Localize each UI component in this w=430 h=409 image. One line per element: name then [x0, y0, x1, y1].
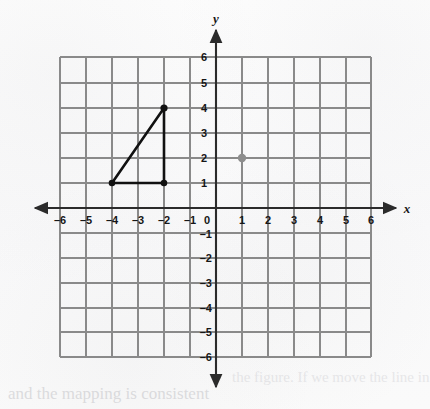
y-tick-label: –6 [200, 351, 212, 363]
y-tick-label: 1 [201, 177, 207, 189]
x-tick-label: –2 [158, 214, 170, 226]
x-tick-label: 6 [368, 214, 374, 226]
triangle-vertex-marker[interactable] [161, 180, 168, 187]
y-tick-label: 5 [201, 77, 207, 89]
y-tick-label: 3 [201, 127, 207, 139]
y-tick-label: –1 [200, 228, 212, 240]
bleed-line-1: and the mapping is consistent [8, 384, 209, 403]
plotted-point-marker[interactable] [238, 154, 246, 162]
y-tick-label: 4 [201, 102, 208, 114]
bleed-line-2: the figure. If we move the line in [232, 369, 430, 385]
origin-label: 0 [204, 214, 210, 226]
x-tick-label: 4 [317, 214, 324, 226]
y-tick-label: –4 [200, 302, 213, 314]
x-tick-label: –1 [184, 214, 196, 226]
y-tick-label: 2 [201, 152, 207, 164]
coordinate-plane-svg: and the mapping is consistent the figure… [0, 0, 430, 409]
x-tick-label: 3 [291, 214, 297, 226]
y-axis-label: y [211, 11, 219, 26]
triangle-vertex-marker[interactable] [160, 104, 167, 111]
y-tick-label: –3 [200, 277, 212, 289]
x-tick-label: –4 [106, 214, 119, 226]
coordinate-plane-figure: and the mapping is consistent the figure… [0, 0, 430, 409]
x-tick-label: 2 [265, 214, 271, 226]
x-tick-label: 1 [239, 214, 245, 226]
x-tick-label: 5 [343, 214, 349, 226]
x-tick-label: –5 [80, 214, 92, 226]
x-tick-label: –6 [54, 214, 66, 226]
y-tick-label: –5 [200, 326, 212, 338]
y-tick-label: 6 [201, 51, 207, 63]
bleed-through-text: and the mapping is consistent the figure… [8, 369, 430, 403]
x-tick-label: –3 [132, 214, 144, 226]
triangle-vertex-marker[interactable] [109, 180, 116, 187]
x-axis-tick-labels: –6 –5 –4 –3 –2 –1 1 2 3 4 5 6 [54, 214, 374, 226]
x-axis-label: x [403, 201, 411, 216]
y-tick-label: –2 [200, 252, 212, 264]
